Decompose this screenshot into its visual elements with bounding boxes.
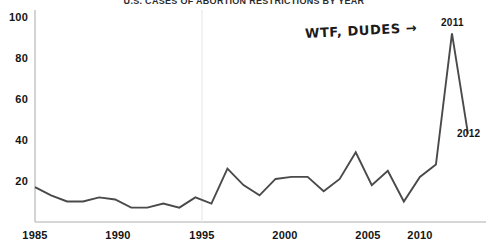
x-tick-2010: 2010 (398, 229, 442, 241)
x-tick-1995: 1995 (180, 229, 224, 241)
x-tick-2005: 2005 (346, 229, 390, 241)
x-tick-1985: 1985 (13, 229, 57, 241)
x-tick-2000: 2000 (263, 229, 307, 241)
x-tick-1990: 1990 (96, 229, 140, 241)
y-tick-20: 20 (2, 175, 28, 187)
y-tick-60: 60 (2, 93, 28, 105)
chart-screenshot: U.S. CASES OF ABORTION RESTRICTIONS BY Y… (0, 0, 488, 249)
y-tick-100: 100 (2, 11, 28, 23)
data-series-line (35, 33, 468, 207)
y-tick-80: 80 (2, 52, 28, 64)
y-tick-40: 40 (2, 134, 28, 146)
data-label-2011: 2011 (441, 17, 464, 28)
data-label-2012: 2012 (457, 128, 480, 139)
line-chart-plot (0, 0, 488, 249)
